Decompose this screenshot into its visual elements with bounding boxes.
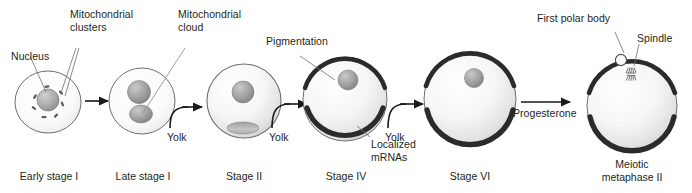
stage-name-meiotic-line2: metaphase II [586,171,678,184]
leader-line-first-polar-body [615,32,624,53]
label-mitochondrial-cloud-line1: Mitochondrial [178,8,241,21]
cell-stage-4 [303,57,387,141]
nucleus [338,70,358,90]
cell-meiotic-metaphase-2 [587,54,677,151]
cell-stage-2 [207,64,281,138]
label-transition-yolk-2: Yolk [269,131,289,144]
cell-early-stage-1 [15,71,81,133]
label-mitochondrial-clusters-line2: clusters [70,21,107,34]
label-mitochondrial-clusters-line1: Mitochondrial [70,8,133,21]
label-localized-mrnas-line2: mRNAs [371,151,407,164]
label-transition-yolk-1: Yolk [167,131,187,144]
stage-name-late-stage-1: Late stage I [96,170,190,183]
stage-name-early-stage-1: Early stage I [0,170,98,183]
nucleus [465,69,484,88]
nucleus [128,81,151,104]
label-first-polar-body: First polar body [537,12,610,25]
transition-arrow-2 [170,107,202,128]
cell-late-stage-1 [109,68,175,134]
stage-name-stage-2: Stage II [203,170,285,183]
label-pigmentation: Pigmentation [266,35,328,48]
label-spindle: Spindle [637,32,672,45]
label-nucleus: Nucleus [11,50,49,63]
localized-mrnas-vegetal [227,122,259,134]
transition-arrow-4 [388,104,423,128]
nucleus [37,89,59,111]
label-transition-progesterone: Progesterone [513,107,577,120]
label-mitochondrial-cloud-line2: cloud [178,21,203,34]
label-transition-yolk-3: Yolk [385,131,405,144]
nucleus [232,81,254,103]
cell-stage-6 [424,53,516,145]
first-polar-body [615,54,626,65]
mitochondrial-cloud [130,105,153,123]
stage-name-stage-4: Stage IV [305,170,387,183]
stage-name-meiotic-line1: Meiotic [586,158,678,171]
stage-name-stage-6: Stage VI [428,170,512,183]
